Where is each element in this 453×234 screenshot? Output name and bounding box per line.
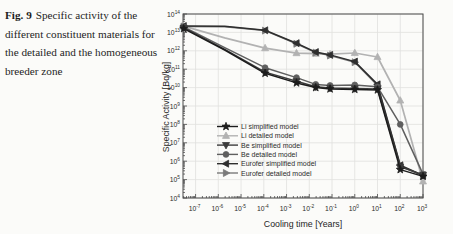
- tick-label: 10-7: [189, 204, 201, 212]
- triangle-up-marker: [397, 97, 404, 103]
- chart-legend: Li simplified modelLi detailed modelBe s…: [217, 122, 317, 176]
- legend-label: Eurofer simplified model: [241, 160, 317, 168]
- legend-item: Li simplified model: [217, 122, 299, 131]
- x-axis-label: Cooling time [Years]: [264, 219, 342, 229]
- tick-label: 10-5: [234, 204, 246, 212]
- tick-label: 103: [417, 204, 428, 212]
- tick-label: 102: [394, 204, 405, 212]
- legend-label: Li detailed model: [241, 132, 294, 139]
- legend-item: Be detailed model: [217, 151, 297, 158]
- tick-label: 109: [170, 102, 181, 110]
- tick-label: 104: [170, 194, 181, 202]
- legend-label: Eurofer detailed model: [241, 170, 312, 177]
- tick-label: 108: [170, 120, 181, 128]
- tick-label: 100: [349, 204, 360, 212]
- tick-label: 1013: [167, 28, 180, 36]
- y-axis-label: Specific Activity [Bq/kg]: [161, 62, 171, 152]
- legend-label: Li simplified model: [241, 123, 299, 131]
- tick-label: 107: [170, 138, 181, 146]
- tick-label: 1014: [167, 10, 180, 18]
- series-Be-simplified-model: [180, 25, 426, 179]
- tick-label: 106: [170, 157, 181, 165]
- tick-label: 10-2: [302, 204, 314, 212]
- legend-item: Eurofer detailed model: [217, 170, 312, 177]
- legend-label: Be detailed model: [241, 151, 297, 158]
- legend-label: Be simplified model: [241, 142, 302, 150]
- tick-label: 10-3: [280, 204, 292, 212]
- legend-item: Li detailed model: [217, 132, 294, 139]
- triangle-right-marker: [223, 170, 229, 177]
- circle-marker: [223, 152, 229, 158]
- activity-chart: 10-710-610-510-410-310-210-1100101102103…: [0, 0, 453, 234]
- tick-label: 10-4: [257, 204, 269, 212]
- tick-label: 1012: [167, 46, 180, 54]
- tick-label: 10-1: [325, 204, 337, 212]
- tick-label: 101: [371, 204, 382, 212]
- circle-marker: [397, 122, 403, 128]
- tick-label: 105: [170, 175, 181, 183]
- tick-label: 10-6: [211, 204, 223, 212]
- star-marker: [222, 122, 230, 130]
